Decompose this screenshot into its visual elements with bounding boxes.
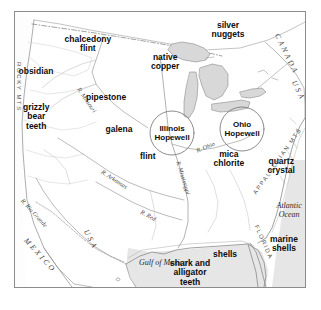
water-label-gulf-of-mexico: Gulf of Mexico xyxy=(139,258,187,267)
water-label-atlantic-ocean: Atlantic Ocean xyxy=(277,201,302,219)
resource-label-native-copper: native copper xyxy=(151,53,179,72)
mexico-usa-border xyxy=(36,202,126,264)
hopewell-label-ohio-hopewell: Ohio Hopewell xyxy=(225,120,260,138)
resource-label-chalcedony-flint: chalcedony flint xyxy=(65,35,112,54)
lake-huron xyxy=(199,64,228,100)
resource-label-shells: shells xyxy=(213,250,237,259)
geo-label-rocky-mts: ROCKY MTS xyxy=(16,62,22,112)
resource-label-silver-nuggets: silver nuggets xyxy=(212,21,245,40)
resource-label-obsidian: obsidian xyxy=(19,67,54,76)
hopewell-label-illinois-hopewell: Illinois Hopewell xyxy=(155,124,190,142)
lake-michigan xyxy=(184,72,198,118)
resource-label-grizzly-bear-teeth: grizzly bear teeth xyxy=(23,103,49,131)
lake-ontario xyxy=(240,88,266,98)
resource-label-marine-shells: marine shells xyxy=(270,235,298,254)
river-arkansas xyxy=(58,138,184,200)
resource-label-galena: galena xyxy=(106,125,133,134)
resource-label-mica-chlorite: mica chlorite xyxy=(214,150,245,169)
resource-label-flint: flint xyxy=(140,152,156,161)
atlantic-ocean-shape xyxy=(272,160,305,287)
